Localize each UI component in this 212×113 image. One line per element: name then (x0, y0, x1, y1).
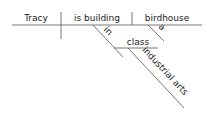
subject-word: Tracy (23, 13, 48, 23)
article-word: a (157, 22, 168, 33)
prep-object-modifier-word: industrial arts (140, 45, 190, 98)
sentence-diagram: Tracy is building birdhouse in class a i… (0, 0, 212, 113)
verb-word: is building (74, 13, 120, 23)
preposition-word: in (102, 25, 115, 38)
direct-object-word: birdhouse (145, 13, 190, 23)
